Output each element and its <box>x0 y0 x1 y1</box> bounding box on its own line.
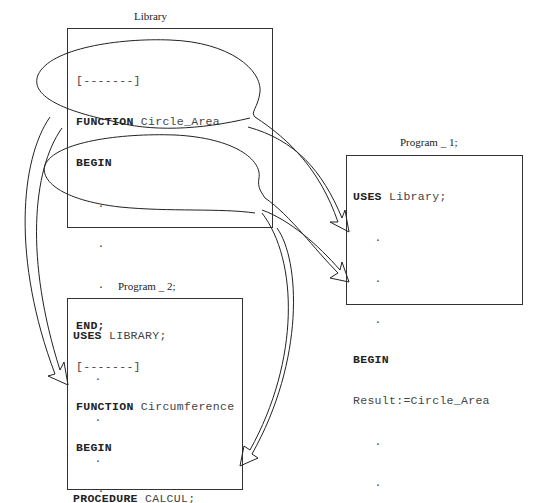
arrow-circumference-to-p1 <box>262 198 349 282</box>
circle-area-ellipse <box>37 40 260 121</box>
circumference-ellipse <box>44 135 265 207</box>
circumference-ellipse-lower <box>120 207 255 213</box>
connector-overlay <box>0 0 536 503</box>
arrow-circumference-to-p2 <box>240 213 294 466</box>
arrow-circle-area-to-p2 <box>25 117 68 385</box>
circle-area-ellipse-lower <box>112 118 250 128</box>
